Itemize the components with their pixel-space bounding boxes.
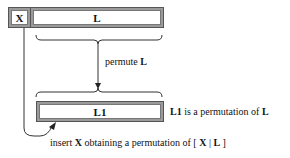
x-box: X bbox=[8, 7, 31, 28]
l1-description: L1 is a permutation of L bbox=[170, 106, 269, 118]
insert-label: insert X obtaining a permutation of [ X … bbox=[50, 137, 226, 149]
x-box-label: X bbox=[11, 10, 28, 25]
l-box-label: L bbox=[33, 10, 161, 25]
permute-label: permute L bbox=[105, 56, 147, 68]
top-brace bbox=[36, 35, 162, 44]
l-box: L bbox=[30, 7, 164, 28]
l1-box-label: L1 bbox=[39, 104, 161, 119]
bottom-brace bbox=[36, 88, 162, 97]
insert-arrow-head-icon bbox=[49, 122, 56, 130]
l1-box: L1 bbox=[36, 101, 164, 122]
